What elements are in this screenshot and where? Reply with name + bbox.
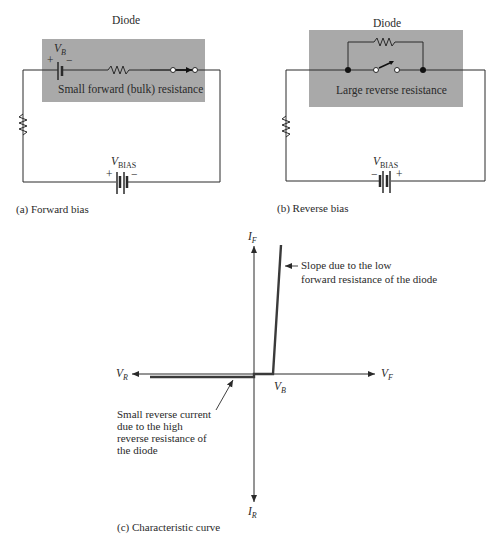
caption-b: (b) Reverse bias (277, 202, 348, 215)
forward-note-line2: forward resistance of the diode (301, 273, 437, 286)
bias-minus-b: − (371, 168, 378, 181)
caption-c: (c) Characteristic curve (117, 521, 220, 534)
vf-symbol: V (381, 367, 388, 379)
ir-sub: R (252, 511, 257, 520)
reverse-note-line4: the diode (117, 444, 158, 457)
vr-axis-label: VR (116, 367, 128, 384)
plus-sign: + (47, 54, 54, 67)
vr-symbol: V (116, 367, 123, 379)
bias-plus-b: + (396, 168, 403, 181)
if-axis-label: IF (248, 230, 257, 247)
diode-title-a: Diode (112, 14, 140, 27)
bias-minus-a: − (131, 168, 138, 181)
vb-symbol: V (54, 42, 61, 54)
vbias-symbol: V (373, 155, 380, 167)
reverse-note-arrow (216, 380, 233, 410)
reverse-resistance-label: Large reverse resistance (336, 84, 447, 97)
bias-battery-icon (111, 172, 131, 194)
vbias-symbol: V (111, 155, 118, 167)
caption-a: (a) Forward bias (16, 203, 89, 216)
forward-note-line1: Slope due to the low (301, 259, 391, 272)
diode-title-b: Diode (373, 17, 401, 30)
vb-symbol: V (274, 380, 281, 392)
knee-voltage-label: VB (274, 380, 286, 397)
if-sub: F (252, 236, 257, 245)
vf-sub: F (388, 373, 393, 382)
vb-label: VB (54, 42, 66, 59)
vf-axis-label: VF (381, 367, 393, 384)
bias-plus-a: + (106, 168, 113, 181)
minus-sign: − (66, 54, 73, 67)
vr-sub: R (123, 373, 128, 382)
iv-curve (150, 245, 281, 377)
forward-resistance-label: Small forward (bulk) resistance (58, 83, 203, 96)
bias-battery-icon (376, 171, 394, 193)
ir-axis-label: IR (248, 505, 257, 522)
vb-sub: B (281, 386, 286, 395)
